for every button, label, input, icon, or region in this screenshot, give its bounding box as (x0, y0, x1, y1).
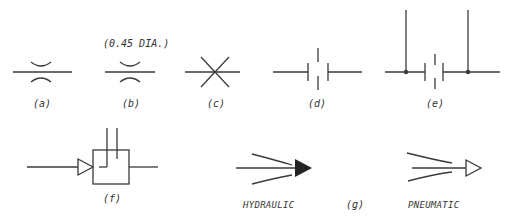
symbol-g-hydraulic: HYDRAULIC (236, 154, 312, 210)
symbol-f: (f) (27, 128, 158, 204)
label-e: (e) (426, 98, 444, 109)
annotation-diameter: (0.45 DIA.) (103, 38, 169, 49)
symbol-g-pneumatic: PNEUMATIC (407, 153, 481, 210)
label-d: (d) (308, 98, 326, 109)
symbol-d: (d) (273, 48, 362, 109)
label-g: (g) (346, 199, 364, 210)
symbol-c: (c) (185, 57, 240, 109)
symbol-a: (a) (13, 62, 72, 109)
label-b: (b) (122, 98, 140, 109)
symbol-e: (e) (385, 10, 500, 109)
symbol-diagram: (a) (0.45 DIA.) (b) (c) (d) (e (0, 0, 510, 219)
symbol-b: (0.45 DIA.) (b) (103, 38, 169, 109)
label-c: (c) (207, 98, 225, 109)
caption-hydraulic: HYDRAULIC (242, 200, 295, 210)
caption-pneumatic: PNEUMATIC (408, 200, 460, 210)
label-f: (f) (103, 193, 121, 204)
label-a: (a) (33, 98, 51, 109)
